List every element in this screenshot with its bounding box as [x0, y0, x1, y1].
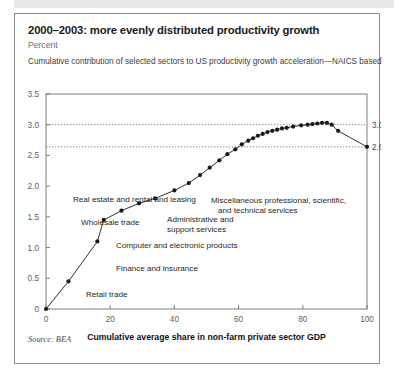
- data-point: [299, 123, 303, 127]
- data-point: [306, 123, 310, 127]
- series-annotation-label: Retail trade: [86, 290, 128, 299]
- y-tick-label: 0.5: [28, 274, 40, 283]
- chart-svg: 00.51.01.52.02.53.03.5 020406080100 3.00…: [15, 14, 381, 365]
- data-point: [265, 130, 269, 134]
- series-annotation-label: Computer and electronic products: [116, 241, 237, 250]
- data-point: [310, 122, 314, 126]
- data-point: [365, 145, 369, 149]
- data-point: [217, 158, 221, 162]
- x-axis-title: Cumulative average share in non-farm pri…: [87, 332, 326, 342]
- data-point: [291, 124, 295, 128]
- page-top-strip: [14, 0, 394, 8]
- data-point: [315, 121, 319, 125]
- y-tick-label: 2.0: [28, 182, 40, 191]
- data-point: [187, 181, 191, 185]
- x-tick-label: 40: [170, 315, 180, 324]
- data-point: [44, 307, 48, 311]
- plot-area: 00.51.01.52.02.53.03.5 020406080100 3.00…: [15, 14, 381, 365]
- x-tick-label: 100: [360, 315, 374, 324]
- series-annotation-label: Administrative and: [167, 215, 234, 224]
- y-axis-ticks: [46, 94, 50, 309]
- x-axis-ticks: [46, 305, 367, 309]
- endpoint-value-label: 3.00: [372, 121, 381, 130]
- series-annotation-label: support services: [167, 225, 226, 234]
- data-point: [172, 188, 176, 192]
- y-tick-label: 3.0: [28, 121, 40, 130]
- y-tick-label: 0: [34, 305, 39, 314]
- x-axis-tick-labels: 020406080100: [44, 315, 375, 324]
- series-annotation-label: Finance and insurance: [116, 264, 198, 273]
- y-tick-label: 3.5: [28, 90, 40, 99]
- data-point: [256, 134, 260, 138]
- reference-lines: [46, 125, 367, 147]
- data-point: [275, 128, 279, 132]
- data-point: [251, 136, 255, 140]
- series-annotation-label: Miscellaneous professional, scientific,: [211, 196, 346, 205]
- x-axis-title-label: Cumulative average share in non-farm pri…: [87, 332, 326, 342]
- x-tick-label: 20: [106, 315, 116, 324]
- y-tick-label: 2.5: [28, 151, 40, 160]
- data-point: [330, 123, 334, 127]
- endpoint-value-labels: 3.002.64: [372, 121, 381, 152]
- data-point: [261, 132, 265, 136]
- data-point: [320, 121, 324, 125]
- x-tick-label: 60: [234, 315, 244, 324]
- data-point: [198, 173, 202, 177]
- data-point: [270, 129, 274, 133]
- data-point: [240, 142, 244, 146]
- series-annotation-label: and technical services: [218, 206, 298, 215]
- data-point: [325, 121, 329, 125]
- endpoint-value-label: 2.64: [372, 143, 381, 152]
- series-annotation-label: Real estate and rental and leasing: [73, 195, 196, 204]
- data-point: [208, 166, 212, 170]
- data-point: [233, 147, 237, 151]
- y-tick-label: 1.5: [28, 213, 40, 222]
- figure-card: 2000–2003: more evenly distributed produ…: [14, 13, 380, 364]
- data-point: [280, 126, 284, 130]
- series-annotation-label: Wholesale trade: [81, 218, 140, 227]
- data-point: [66, 279, 70, 283]
- x-tick-label: 80: [298, 315, 308, 324]
- data-point: [119, 209, 123, 213]
- source-note: Source: BEA: [28, 335, 71, 344]
- data-point: [336, 129, 340, 133]
- data-point: [246, 139, 250, 143]
- data-point: [95, 239, 99, 243]
- data-point: [225, 152, 229, 156]
- y-tick-label: 1.0: [28, 244, 40, 253]
- data-point: [285, 126, 289, 130]
- series-annotations: Retail tradeFinance and insuranceCompute…: [73, 195, 346, 299]
- y-axis-tick-labels: 00.51.01.52.02.53.03.5: [28, 90, 40, 314]
- x-tick-label: 0: [44, 315, 49, 324]
